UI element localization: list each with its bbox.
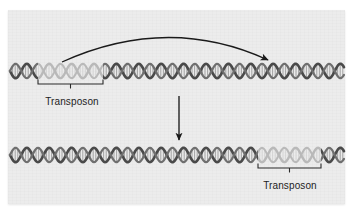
transposon-diagram: Transposon Transposon bbox=[0, 0, 357, 217]
dna-strand-after-transposition bbox=[10, 148, 344, 162]
transposon-label-top: Transposon bbox=[45, 96, 98, 107]
dna-strand-before-transposition bbox=[10, 64, 344, 78]
transposon-label-bottom: Transposon bbox=[263, 180, 316, 191]
